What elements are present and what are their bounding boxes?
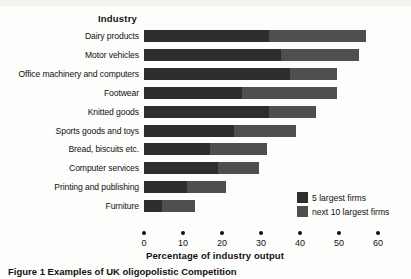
- bar-segment: [210, 143, 267, 155]
- x-axis-tick-label: 10: [172, 238, 194, 248]
- bar-segment: [144, 68, 290, 80]
- x-axis-title: Percentage of industry output: [146, 250, 284, 261]
- category-label: Dairy products: [2, 31, 139, 41]
- x-axis-tick-label: 60: [367, 238, 389, 248]
- x-axis-tick: [181, 231, 185, 235]
- figure-page: IndustryDairy productsMotor vehiclesOffi…: [0, 0, 411, 279]
- bar-segment: [144, 87, 242, 99]
- bar-row: [144, 30, 366, 42]
- x-axis-tick: [259, 231, 263, 235]
- legend-swatch: [297, 206, 308, 217]
- x-axis-tick: [298, 231, 302, 235]
- x-axis-tick-label: 40: [289, 238, 311, 248]
- x-axis-tick: [220, 231, 224, 235]
- bar-row: [144, 68, 337, 80]
- bar-row: [144, 200, 195, 212]
- x-axis-tick-label: 30: [250, 238, 272, 248]
- category-label: Knitted goods: [2, 107, 139, 117]
- category-label: Furniture: [2, 201, 139, 211]
- bar-chart: IndustryDairy productsMotor vehiclesOffi…: [0, 0, 411, 279]
- category-label: Motor vehicles: [2, 50, 139, 60]
- bar-segment: [242, 87, 338, 99]
- bar-segment: [144, 200, 162, 212]
- bar-segment: [144, 143, 210, 155]
- bar-segment: [234, 125, 296, 137]
- category-label: Sports goods and toys: [2, 126, 139, 136]
- bar-segment: [187, 181, 226, 193]
- bar-row: [144, 181, 226, 193]
- category-label: Footwear: [2, 88, 139, 98]
- legend-label: 5 largest firms: [312, 193, 366, 203]
- bar-segment: [144, 106, 269, 118]
- bar-segment: [144, 125, 234, 137]
- bar-segment: [290, 68, 337, 80]
- bar-segment: [218, 162, 259, 174]
- bar-row: [144, 106, 316, 118]
- x-axis-tick-label: 0: [133, 238, 155, 248]
- category-label: Printing and publishing: [2, 182, 139, 192]
- bar-segment: [144, 181, 187, 193]
- x-axis-tick: [376, 231, 380, 235]
- bar-segment: [269, 106, 316, 118]
- bar-row: [144, 87, 337, 99]
- x-axis-tick: [142, 231, 146, 235]
- y-axis-title: Industry: [98, 13, 137, 24]
- bar-segment: [144, 49, 281, 61]
- bar-segment: [269, 30, 367, 42]
- bar-row: [144, 143, 267, 155]
- category-label: Bread, biscuits etc.: [2, 144, 139, 154]
- x-axis-tick-label: 50: [328, 238, 350, 248]
- bar-segment: [144, 30, 269, 42]
- category-label: Computer services: [2, 163, 139, 173]
- bar-segment: [144, 162, 218, 174]
- x-axis-tick-label: 20: [211, 238, 233, 248]
- bar-row: [144, 162, 259, 174]
- legend-swatch: [297, 192, 308, 203]
- figure-caption: Figure 1 Examples of UK oligopolistic Co…: [8, 266, 308, 279]
- bar-row: [144, 125, 296, 137]
- bar-segment: [162, 200, 195, 212]
- bar-row: [144, 49, 359, 61]
- category-label: Office machinery and computers: [2, 69, 139, 79]
- bar-segment: [281, 49, 359, 61]
- legend-label: next 10 largest firms: [312, 207, 389, 217]
- x-axis-tick: [337, 231, 341, 235]
